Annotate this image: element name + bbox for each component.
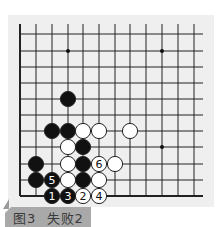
black-stone <box>60 91 75 106</box>
white-stone <box>91 172 106 187</box>
star-point <box>160 145 164 149</box>
move-number: 2 <box>80 190 87 203</box>
black-stone <box>44 123 59 138</box>
black-stone <box>75 139 90 154</box>
move-number: 3 <box>65 190 72 203</box>
figure-caption: 图3 失败2 <box>13 208 84 227</box>
white-stone <box>60 139 75 154</box>
white-stone <box>60 172 75 187</box>
black-stone <box>75 172 90 187</box>
black-stone <box>60 123 75 138</box>
star-point <box>66 49 70 53</box>
white-stone <box>60 156 75 171</box>
white-stone <box>75 123 90 138</box>
move-number: 5 <box>49 174 56 187</box>
move-number: 6 <box>96 158 103 171</box>
black-stone <box>75 156 90 171</box>
star-point <box>160 49 164 53</box>
white-stone <box>107 156 122 171</box>
white-stone <box>122 123 137 138</box>
black-stone <box>28 172 43 187</box>
white-stone <box>91 123 106 138</box>
move-number: 1 <box>49 190 56 203</box>
black-stone <box>28 156 43 171</box>
go-board: 651324 <box>0 0 221 227</box>
move-number: 4 <box>96 190 103 203</box>
